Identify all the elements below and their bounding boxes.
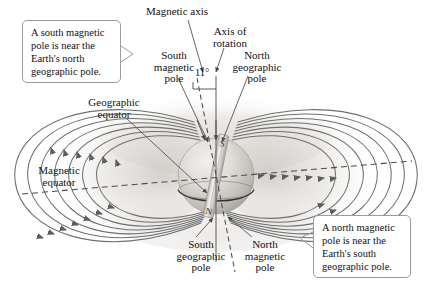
label-magnetic-axis: Magnetic axis xyxy=(146,6,228,18)
label-south-geographic-pole: South geographic pole xyxy=(172,239,230,274)
label-tilt-angle: 11° xyxy=(195,67,219,79)
label-north-geographic-pole: North geographic pole xyxy=(229,50,285,85)
label-axis-of-rotation: Axis of rotation xyxy=(203,26,257,49)
callout-south-magnetic-pole: A south magnetic pole is near the Earth'… xyxy=(22,20,121,83)
callout-north-magnetic-pole: A north magnetic pole is near the Earth'… xyxy=(313,215,411,278)
label-south-magnetic-pole: South magnetic pole xyxy=(150,50,198,85)
label-magnetic-equator: Magnetic equator xyxy=(28,165,90,188)
label-geographic-equator: Geographic equator xyxy=(82,97,146,120)
label-north-magnetic-pole: North magnetic pole xyxy=(238,239,292,274)
